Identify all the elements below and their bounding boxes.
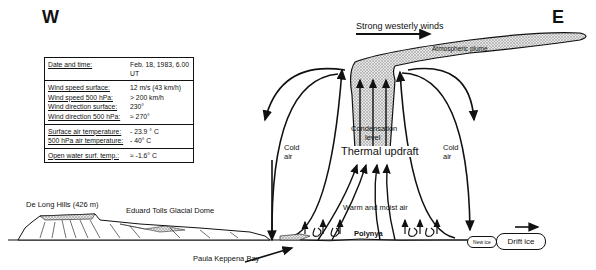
condensation-label: Condensation: [351, 125, 397, 133]
west-label: W: [42, 8, 59, 26]
strong-winds-label: Strong westerly winds: [356, 22, 444, 31]
table-value: - 40° C: [130, 137, 190, 146]
table-row: 500 hPa air temperature: - 40° C: [48, 137, 190, 146]
de-long-hills-label: De Long Hills (426 m): [26, 201, 99, 209]
table-value: > 200 km/h: [130, 94, 190, 103]
cold-air-right-label: Cold: [443, 144, 458, 152]
table-label: Wind direction 500 hPa:: [48, 113, 130, 122]
table-row: Wind speed surface: 12 m/s (43 km/h): [48, 84, 190, 93]
table-value: - 23.9 ° C: [130, 128, 190, 137]
table-label: Date and time:: [48, 61, 130, 78]
polynya-label: Polynya: [354, 230, 383, 238]
table-value: Feb. 18, 1983, 6.00 UT: [130, 61, 190, 78]
table-row: Open water surf. temp.: ≈ -1.6° C: [48, 152, 190, 161]
table-row: Surface air temperature: - 23.9 ° C: [48, 128, 190, 137]
table-group-wind: Wind speed surface: 12 m/s (43 km/h) Win…: [45, 81, 193, 124]
cold-air-left-label: Cold: [284, 144, 299, 152]
table-group-datetime: Date and time: Feb. 18, 1983, 6.00 UT: [45, 58, 193, 81]
paula-keppena-bay-label: Paula Keppena Bay: [193, 255, 259, 263]
table-value: ≈ 270°: [130, 113, 190, 122]
table-group-temperature: Surface air temperature: - 23.9 ° C 500 …: [45, 125, 193, 149]
table-row: Wind direction 500 hPa: ≈ 270°: [48, 113, 190, 122]
drift-ice-label: Drift ice: [496, 233, 546, 250]
terrain: [8, 214, 470, 241]
condensation-level-label: level: [365, 134, 380, 142]
glacial-dome-label: Eduard Tolls Glacial Dome: [126, 207, 214, 215]
table-label: Wind speed 500 hPa:: [48, 94, 130, 103]
cold-air-right-label-2: air: [443, 153, 451, 161]
cold-air-left-label-2: air: [284, 153, 292, 161]
table-value: 12 m/s (43 km/h): [130, 84, 190, 93]
polynya-diagram: W E Date and time: Feb. 18, 1983, 6.00 U…: [0, 0, 596, 270]
new-ice-label: New ice: [467, 236, 497, 248]
table-value: ≈ -1.6° C: [130, 152, 190, 161]
warm-moist-air-label: Warm and moist air: [343, 204, 408, 212]
table-group-water: Open water surf. temp.: ≈ -1.6° C: [45, 149, 193, 163]
table-label: Open water surf. temp.:: [48, 152, 130, 161]
east-label: E: [552, 8, 564, 26]
table-row: Wind direction surface: 230°: [48, 103, 190, 112]
thermal-updraft-label: Thermal updraft: [340, 146, 420, 157]
table-row: Date and time: Feb. 18, 1983, 6.00 UT: [48, 61, 190, 78]
table-label: Wind direction surface:: [48, 103, 130, 112]
table-label: Surface air temperature:: [48, 128, 130, 137]
left-cold-air-circulation: [265, 69, 345, 240]
table-label: Wind speed surface:: [48, 84, 130, 93]
table-row: Wind speed 500 hPa: > 200 km/h: [48, 94, 190, 103]
plume-label: Atmospheric plume: [432, 46, 488, 53]
table-label: 500 hPa air temperature:: [48, 137, 130, 146]
table-value: 230°: [130, 103, 190, 112]
conditions-table: Date and time: Feb. 18, 1983, 6.00 UT Wi…: [44, 57, 194, 163]
